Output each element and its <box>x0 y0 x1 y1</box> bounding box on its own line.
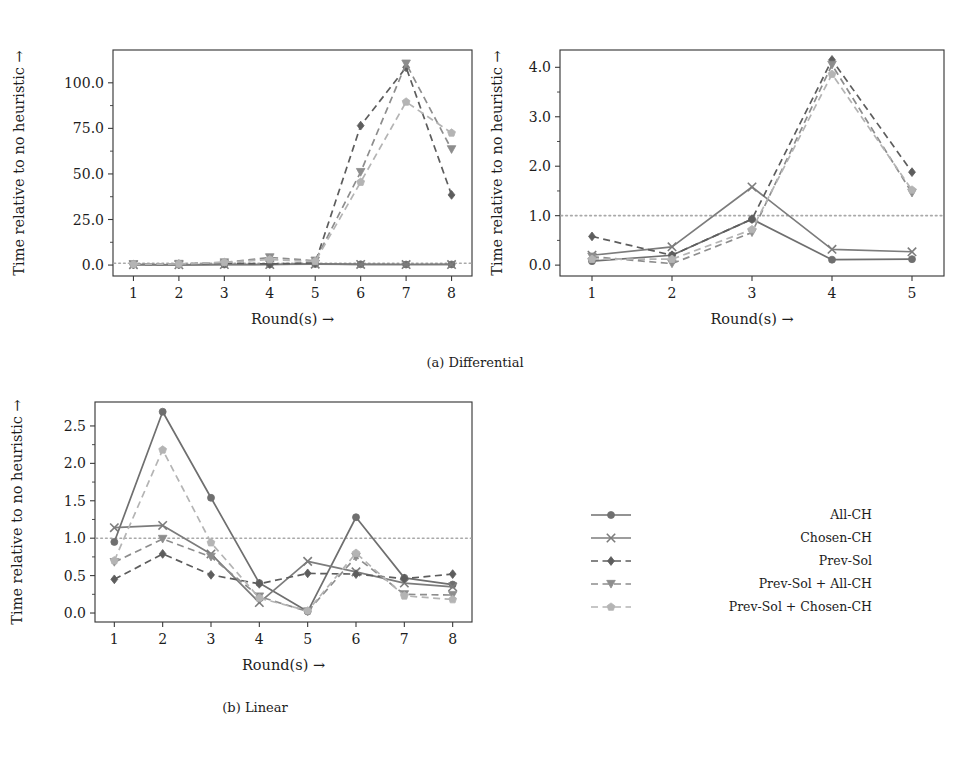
axes-frame <box>113 50 472 276</box>
legend-item-marker-circle-icon <box>588 505 634 525</box>
axes-frame <box>95 402 472 622</box>
x-tick-label: 4 <box>265 285 274 301</box>
y-tick-label: 0.0 <box>64 605 86 621</box>
plot-area-differential-left: 0.025.050.075.0100.012345678Round(s) →Ti… <box>0 28 480 348</box>
x-tick-label: 4 <box>828 285 837 301</box>
y-tick-label: 50.0 <box>73 166 104 182</box>
legend-item-label: Chosen-CH <box>634 530 874 545</box>
legend-item-marker-pentagon-icon <box>588 597 634 617</box>
legend-item-label: Prev-Sol + Chosen-CH <box>634 599 874 614</box>
x-tick-label: 6 <box>356 285 365 301</box>
chart-linear: 0.00.51.01.52.02.512345678Round(s) →Time… <box>0 388 480 688</box>
x-tick-label: 3 <box>220 285 229 301</box>
y-tick-label: 2.5 <box>64 418 86 434</box>
legend-item-label: Prev-Sol <box>634 553 874 568</box>
y-tick-label: 2.0 <box>529 158 551 174</box>
x-tick-label: 5 <box>303 631 312 647</box>
x-tick-label: 4 <box>255 631 264 647</box>
x-tick-label: 7 <box>400 631 409 647</box>
subfigure-caption-b: (b) Linear <box>120 700 390 715</box>
x-tick-label: 8 <box>447 285 456 301</box>
x-tick-label: 2 <box>174 285 183 301</box>
y-tick-label: 3.0 <box>529 109 551 125</box>
plot-area-differential-right: 0.01.02.03.04.012345Round(s) →Time relat… <box>482 28 962 348</box>
legend-item-marker-triangle-down-icon <box>588 574 634 594</box>
y-tick-label: 1.0 <box>64 530 86 546</box>
x-tick-label: 3 <box>748 285 757 301</box>
y-tick-label: 0.5 <box>64 568 86 584</box>
y-tick-label: 2.0 <box>64 455 86 471</box>
x-tick-label: 5 <box>908 285 917 301</box>
legend-item: Chosen-CH <box>588 526 888 549</box>
series-prev-sol-chosen-ch <box>130 98 456 268</box>
legend-item-label: All-CH <box>634 507 874 522</box>
y-tick-label: 1.5 <box>64 493 86 509</box>
chart-differential-left: 0.025.050.075.0100.012345678Round(s) →Ti… <box>0 28 480 348</box>
x-tick-label: 7 <box>402 285 411 301</box>
x-tick-label: 1 <box>129 285 138 301</box>
legend-item: All-CH <box>588 503 888 526</box>
x-axis-title: Round(s) → <box>710 311 793 327</box>
series-prev-sol-all-ch <box>588 61 917 268</box>
x-axis-title: Round(s) → <box>242 657 325 673</box>
legend-item: Prev-Sol <box>588 549 888 572</box>
y-tick-label: 4.0 <box>529 59 551 75</box>
x-tick-label: 2 <box>158 631 167 647</box>
y-tick-label: 25.0 <box>73 212 104 228</box>
y-tick-label: 100.0 <box>64 75 104 91</box>
y-tick-label: 1.0 <box>529 208 551 224</box>
series-prev-sol-chosen-ch <box>110 446 456 614</box>
x-axis-title: Round(s) → <box>251 311 334 327</box>
y-axis-title: Time relative to no heuristic → <box>11 50 27 275</box>
y-axis-title: Time relative to no heuristic → <box>9 399 25 624</box>
legend-item-label: Prev-Sol + All-CH <box>634 576 874 591</box>
series-prev-sol-all-ch <box>129 60 456 268</box>
subfigure-caption-a: (a) Differential <box>340 355 610 370</box>
y-tick-label: 0.0 <box>82 257 104 273</box>
legend-item-marker-diamond-icon <box>588 551 634 571</box>
x-tick-label: 3 <box>207 631 216 647</box>
x-tick-label: 1 <box>588 285 597 301</box>
y-tick-label: 0.0 <box>529 257 551 273</box>
plot-area-linear: 0.00.51.01.52.02.512345678Round(s) →Time… <box>0 388 480 688</box>
x-tick-label: 6 <box>352 631 361 647</box>
y-tick-label: 75.0 <box>73 120 104 136</box>
y-axis-title: Time relative to no heuristic → <box>489 50 505 275</box>
legend-item: Prev-Sol + All-CH <box>588 572 888 595</box>
legend-item: Prev-Sol + Chosen-CH <box>588 595 888 618</box>
x-tick-label: 8 <box>448 631 457 647</box>
x-tick-label: 5 <box>311 285 320 301</box>
legend: All-CHChosen-CHPrev-SolPrev-Sol + All-CH… <box>588 503 888 628</box>
chart-differential-right: 0.01.02.03.04.012345Round(s) →Time relat… <box>482 28 962 348</box>
legend-item-marker-x-icon <box>588 528 634 548</box>
series-prev-sol <box>130 63 455 269</box>
figure-root: 0.025.050.075.0100.012345678Round(s) →Ti… <box>0 0 962 758</box>
x-tick-label: 2 <box>668 285 677 301</box>
x-tick-label: 1 <box>110 631 119 647</box>
